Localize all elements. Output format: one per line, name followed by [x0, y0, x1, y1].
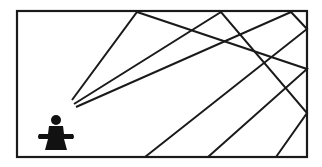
- person-head: [51, 115, 61, 125]
- reflection-diagram: [0, 0, 322, 167]
